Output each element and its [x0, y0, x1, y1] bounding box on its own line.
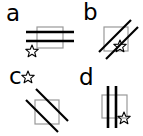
panel-b-label: b: [83, 1, 98, 24]
panel-a: a: [0, 0, 71, 68]
star-icon: [117, 111, 131, 125]
square-outline: [37, 27, 63, 48]
star-icon: [25, 44, 39, 58]
star-icon: [113, 39, 127, 53]
star-icon: [21, 70, 35, 84]
panel-d: d: [72, 68, 143, 136]
panel-c-diagram: [25, 88, 71, 134]
panel-c-label: c: [9, 65, 22, 88]
panel-a-label: a: [6, 2, 20, 25]
figure-canvas: a b c d: [0, 0, 143, 136]
panel-c: c: [0, 68, 71, 136]
panel-b: b: [72, 0, 143, 68]
panel-d-label: d: [79, 66, 94, 89]
